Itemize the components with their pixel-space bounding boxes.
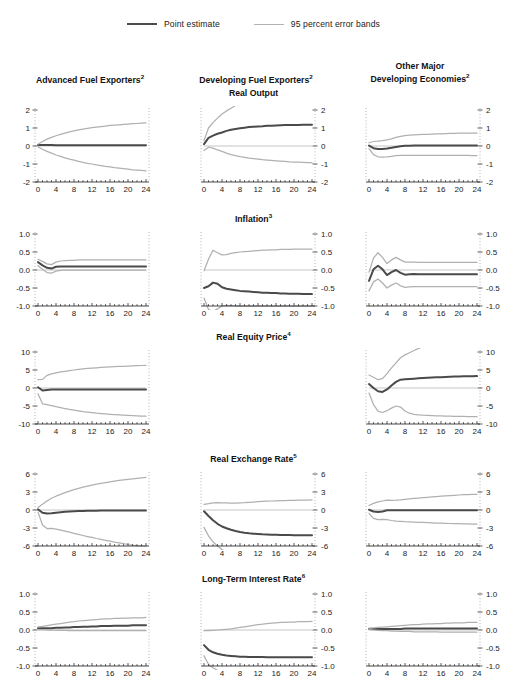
error-band-line bbox=[38, 365, 146, 379]
x-axis-tick-label: 16 bbox=[272, 549, 281, 558]
x-axis-tick-label: 0 bbox=[202, 309, 207, 318]
legend-item-point-estimate: Point estimate bbox=[127, 19, 220, 29]
y-axis-tick-label: -0.5 bbox=[321, 644, 335, 653]
error-band-line bbox=[38, 394, 146, 416]
y-axis-tick-label: 2 bbox=[321, 106, 326, 115]
chart-panel: -10-5051004812162024 bbox=[8, 344, 168, 444]
y-axis-tick-label: 0 bbox=[26, 142, 31, 151]
x-axis-tick-label: 8 bbox=[403, 669, 408, 678]
x-axis-tick-label: 16 bbox=[106, 427, 115, 436]
x-axis-tick-label: 12 bbox=[419, 549, 428, 558]
x-axis-tick-label: 16 bbox=[272, 185, 281, 194]
point-estimate-line-swatch bbox=[127, 23, 157, 25]
error-band-line bbox=[204, 147, 312, 162]
x-axis-tick-label: 16 bbox=[437, 309, 446, 318]
row-title-text: Real Output bbox=[229, 88, 278, 98]
y-axis-tick-label: 0.0 bbox=[19, 626, 31, 635]
x-axis-tick-label: 16 bbox=[272, 669, 281, 678]
x-axis-tick-label: 4 bbox=[220, 549, 225, 558]
x-axis-tick-label: 8 bbox=[238, 549, 243, 558]
x-axis-tick-label: 24 bbox=[473, 185, 482, 194]
x-axis-tick-label: 16 bbox=[437, 427, 446, 436]
y-axis-tick-label: 1 bbox=[486, 124, 491, 133]
x-axis-tick-label: 8 bbox=[238, 669, 243, 678]
y-axis-tick-label: -0.5 bbox=[486, 284, 500, 293]
column-header-text-1: Developing Fuel Exporters bbox=[199, 75, 309, 85]
x-axis-tick-label: 20 bbox=[290, 309, 299, 318]
y-axis-tick-label: -1.0 bbox=[486, 302, 500, 311]
x-axis-tick-label: 8 bbox=[403, 185, 408, 194]
y-axis-tick-label: 6 bbox=[486, 470, 491, 479]
x-axis-tick-label: 20 bbox=[124, 549, 133, 558]
x-axis-tick-label: 16 bbox=[106, 309, 115, 318]
y-axis-tick-label: -1 bbox=[486, 160, 494, 169]
column-headers: Advanced Fuel Exporters2 Developing Fuel… bbox=[0, 60, 507, 88]
x-axis-tick-label: 16 bbox=[106, 549, 115, 558]
error-band-line bbox=[369, 149, 477, 157]
x-axis-tick-label: 16 bbox=[106, 185, 115, 194]
x-axis-tick-label: 0 bbox=[367, 549, 372, 558]
x-axis-tick-label: 20 bbox=[124, 185, 133, 194]
y-axis-tick-label: -5 bbox=[23, 402, 31, 411]
row-title: Inflation3 bbox=[0, 212, 507, 224]
x-axis-tick-label: 20 bbox=[455, 427, 464, 436]
chart-panel: -1.0-0.50.00.51.004812162024 bbox=[174, 226, 334, 326]
x-axis-tick-label: 24 bbox=[473, 669, 482, 678]
y-axis-tick-label: 6 bbox=[26, 470, 31, 479]
error-band-line bbox=[369, 622, 477, 628]
x-axis-tick-label: 0 bbox=[36, 669, 41, 678]
x-axis-tick-label: 24 bbox=[473, 309, 482, 318]
y-axis-tick-label: -1.0 bbox=[486, 662, 500, 671]
chart-row-inflation: Inflation3-1.0-0.50.00.51.004812162024-1… bbox=[0, 212, 507, 330]
y-axis-tick-label: -1.0 bbox=[321, 302, 335, 311]
y-axis-tick-label: 5 bbox=[486, 366, 491, 375]
error-band-line bbox=[369, 513, 477, 524]
x-axis-tick-label: 24 bbox=[473, 427, 482, 436]
y-axis-tick-label: 1.0 bbox=[321, 590, 333, 599]
x-axis-tick-label: 8 bbox=[403, 549, 408, 558]
y-axis-tick-label: 0 bbox=[486, 142, 491, 151]
x-axis-tick-label: 8 bbox=[72, 185, 77, 194]
point-estimate-line bbox=[369, 266, 477, 281]
y-axis-tick-label: -0.5 bbox=[16, 644, 30, 653]
chart-panel: -2-101204812162024 bbox=[174, 102, 334, 202]
x-axis-tick-label: 16 bbox=[106, 669, 115, 678]
x-axis-tick-label: 16 bbox=[437, 185, 446, 194]
chart-panel: -6-303604812162024 bbox=[174, 466, 334, 566]
column-header-other-major-developing-economies: Other Major Developing Economies2 bbox=[340, 61, 500, 85]
y-axis-tick-label: 0.5 bbox=[19, 608, 31, 617]
y-axis-tick-label: 0.5 bbox=[486, 248, 498, 257]
error-band-line bbox=[204, 500, 312, 504]
x-axis-tick-label: 12 bbox=[88, 309, 97, 318]
chart-row-real-exchange-rate: Real Exchange Rate5-6-303604812162024-6-… bbox=[0, 452, 507, 570]
x-axis-tick-label: 8 bbox=[72, 669, 77, 678]
y-axis-tick-label: -6 bbox=[23, 542, 31, 551]
x-axis-tick-label: 4 bbox=[385, 427, 390, 436]
chart-panel: -1.0-0.50.00.51.004812162024 bbox=[8, 586, 168, 686]
x-axis-tick-label: 20 bbox=[290, 185, 299, 194]
y-axis-tick-label: 0.5 bbox=[19, 248, 31, 257]
x-axis-tick-label: 24 bbox=[142, 309, 151, 318]
row-title-text: Real Exchange Rate bbox=[210, 454, 293, 464]
row-title: Real Exchange Rate5 bbox=[0, 452, 507, 464]
chart-row-real-output: Real Output-2-101204812162024-2-10120481… bbox=[0, 88, 507, 206]
y-axis-tick-label: 2 bbox=[486, 106, 491, 115]
x-axis-tick-label: 12 bbox=[419, 669, 428, 678]
y-axis-tick-label: 0 bbox=[321, 142, 326, 151]
x-axis-tick-label: 20 bbox=[290, 549, 299, 558]
row-title-footnote: 4 bbox=[287, 330, 290, 337]
y-axis-tick-label: -2 bbox=[321, 178, 329, 187]
y-axis-tick-label: -0.5 bbox=[16, 284, 30, 293]
x-axis-tick-label: 4 bbox=[385, 669, 390, 678]
x-axis-tick-label: 4 bbox=[220, 309, 225, 318]
x-axis-tick-label: 8 bbox=[403, 309, 408, 318]
x-axis-tick-label: 4 bbox=[220, 185, 225, 194]
row-title-footnote: 5 bbox=[293, 452, 296, 459]
x-axis-tick-label: 0 bbox=[367, 185, 372, 194]
x-axis-tick-label: 0 bbox=[36, 185, 41, 194]
x-axis-tick-label: 24 bbox=[142, 669, 151, 678]
column-footnote-2: 2 bbox=[466, 72, 469, 79]
y-axis-tick-label: -6 bbox=[321, 542, 329, 551]
column-header-advanced-fuel-exporters: Advanced Fuel Exporters2 bbox=[10, 72, 170, 85]
x-axis-tick-label: 20 bbox=[124, 309, 133, 318]
